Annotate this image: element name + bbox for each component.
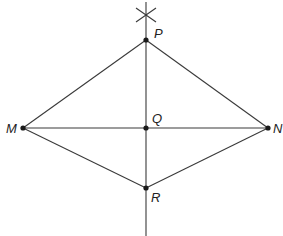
construction-diagram: P M N Q R: [0, 0, 283, 236]
label-P: P: [154, 26, 163, 41]
point-Q: [143, 125, 148, 130]
point-N: [265, 125, 270, 130]
segment-RN: [146, 128, 268, 188]
segment-PN: [146, 40, 268, 128]
label-Q: Q: [152, 111, 162, 126]
point-M: [20, 125, 25, 130]
segment-MP: [23, 40, 146, 128]
label-M: M: [6, 121, 17, 136]
point-R: [143, 185, 148, 190]
point-P: [143, 37, 148, 42]
label-R: R: [151, 190, 160, 205]
segment-MR: [23, 128, 146, 188]
label-N: N: [273, 121, 283, 136]
